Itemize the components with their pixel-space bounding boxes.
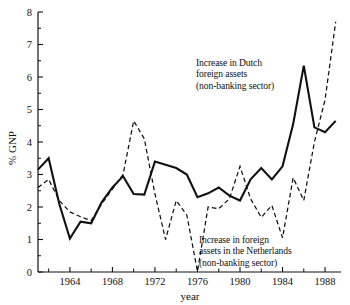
annotation-foreign-assets-in-netherlands: Increase in foreign assets in the Nether… (199, 234, 292, 268)
y-tick-label: 6 (27, 72, 32, 83)
y-tick-label: 2 (27, 202, 32, 213)
y-tick-label: 1 (27, 234, 32, 245)
y-tick-label: 4 (27, 137, 33, 148)
series-line-dutch-foreign-assets (38, 66, 336, 239)
y-tick-label: 3 (27, 169, 32, 180)
x-tick-label: 1984 (272, 276, 294, 287)
annotation-dutch-foreign-assets: Increase in Dutch foreign assets (non-ba… (196, 57, 274, 91)
x-tick-label: 1968 (102, 276, 123, 287)
annotation-dutch-line-3: (non-banking sector) (196, 80, 274, 91)
y-axis-title: % GNP (6, 131, 18, 165)
annotation-dutch-line-2: foreign assets (196, 68, 274, 79)
x-tick-label: 1980 (230, 276, 251, 287)
y-tick-label: 5 (27, 104, 32, 115)
x-tick-label: 1988 (315, 276, 336, 287)
y-tick-label: 0 (27, 267, 32, 278)
x-axis-tick-labels: 1964196819721976198019841988 (59, 276, 335, 287)
x-tick-label: 1976 (187, 276, 208, 287)
line-chart-plot: 012345678 1964196819721976198019841988 %… (0, 0, 350, 305)
x-tick-label: 1964 (59, 276, 81, 287)
x-axis-title: year (181, 290, 200, 302)
annotation-dutch-line-1: Increase in Dutch (196, 57, 274, 68)
y-axis-tick-labels: 012345678 (27, 7, 33, 278)
annotation-netherlands-line-2: assets in the Netherlands (199, 245, 292, 256)
x-tick-label: 1972 (144, 276, 165, 287)
y-tick-label: 7 (27, 39, 32, 50)
annotation-netherlands-line-3: (non-banking sector) (199, 257, 292, 268)
y-axis-ticks (38, 12, 43, 272)
chart-container: 012345678 1964196819721976198019841988 %… (0, 0, 350, 305)
annotation-netherlands-line-1: Increase in foreign (199, 234, 292, 245)
y-tick-label: 8 (27, 7, 32, 18)
